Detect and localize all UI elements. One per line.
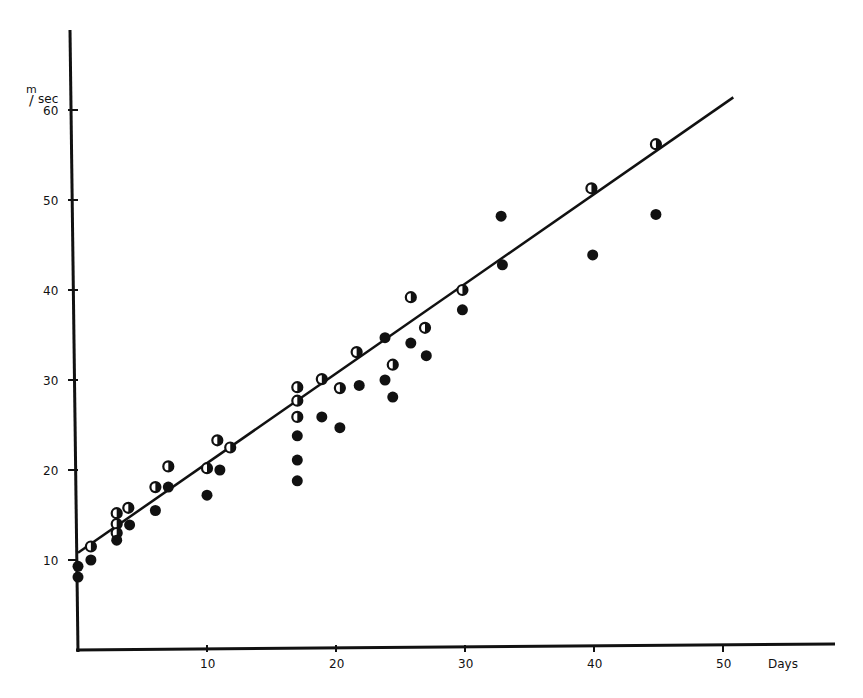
half-open-point (123, 503, 133, 513)
filled-point (354, 380, 365, 391)
half-open-point (586, 183, 596, 193)
filled-point (380, 375, 391, 386)
half-open-point (292, 382, 302, 392)
filled-point (163, 482, 174, 493)
filled-point (650, 209, 661, 220)
y-tick-label: 50 (43, 194, 58, 208)
data-points (73, 139, 662, 582)
y-tick-label: 20 (43, 464, 58, 478)
half-open-point (651, 139, 661, 149)
half-open-point (292, 396, 302, 406)
x-tick-label: 30 (458, 657, 473, 671)
half-open-point (112, 508, 122, 518)
half-open-point (317, 374, 327, 384)
y-tick-label: 10 (43, 554, 58, 568)
filled-point (587, 249, 598, 260)
x-tick-label: 50 (716, 657, 731, 671)
axes: 1020304050102030405060 (43, 30, 835, 671)
filled-point (387, 392, 398, 403)
half-open-point (457, 285, 467, 295)
half-open-point (388, 360, 398, 370)
filled-point (73, 572, 84, 583)
filled-point (202, 490, 213, 501)
filled-point (421, 350, 432, 361)
x-tick-label: 20 (329, 657, 344, 671)
x-axis-label: Days (768, 657, 798, 671)
half-open-point (420, 323, 430, 333)
filled-point (292, 455, 303, 466)
y-axis (70, 30, 78, 652)
filled-point (457, 304, 468, 315)
half-open-point (335, 383, 345, 393)
half-open-point (292, 412, 302, 422)
y-axis-label-denominator: sec (38, 92, 58, 106)
filled-point (150, 505, 161, 516)
half-open-point (212, 435, 222, 445)
filled-point (334, 422, 345, 433)
filled-point (380, 332, 391, 343)
filled-point (85, 555, 96, 566)
half-open-point (406, 292, 416, 302)
regression-line (78, 97, 733, 552)
half-open-point (202, 463, 212, 473)
half-open-point (225, 443, 235, 453)
x-tick-label: 10 (200, 657, 215, 671)
scatter-chart: 1020304050102030405060 m sec / Days (0, 0, 863, 698)
filled-point (111, 535, 122, 546)
filled-point (292, 475, 303, 486)
filled-point (124, 519, 135, 530)
y-tick-label: 30 (43, 374, 58, 388)
filled-point (316, 411, 327, 422)
filled-point (405, 338, 416, 349)
half-open-point (352, 347, 362, 357)
half-open-point (150, 482, 160, 492)
y-tick-label: 40 (43, 284, 58, 298)
y-tick-label: 60 (43, 104, 58, 118)
half-open-point (86, 542, 96, 552)
x-tick-label: 40 (587, 657, 602, 671)
x-axis (76, 644, 835, 650)
filled-point (214, 465, 225, 476)
filled-point (292, 430, 303, 441)
filled-point (73, 561, 84, 572)
half-open-point (163, 461, 173, 471)
filled-point (497, 259, 508, 270)
y-axis-label-slash: / (29, 92, 34, 108)
filled-point (496, 211, 507, 222)
